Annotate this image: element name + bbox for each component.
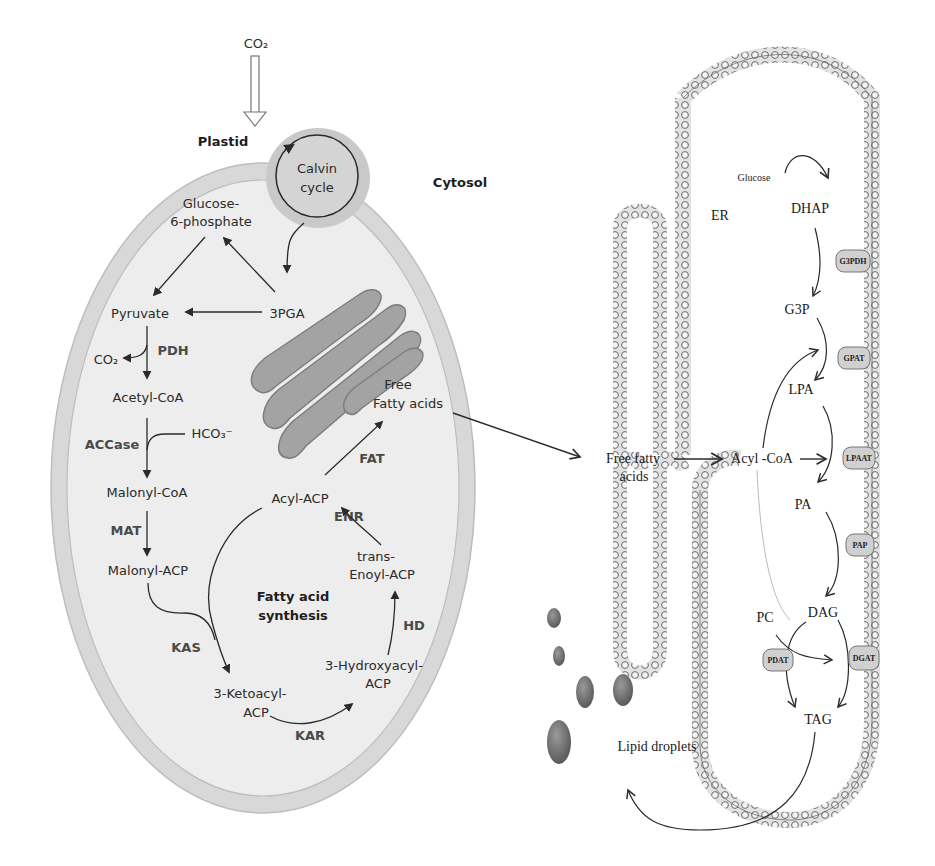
acyl-acp-label: Acyl-ACP [271,491,328,506]
lipid-biosynthesis-diagram: CO₂ Plastid Cytosol Calvin cycle Glucose… [0,0,935,866]
svg-text:LPAAT: LPAAT [846,454,873,463]
pdh-enzyme: PDH [157,343,188,358]
co2-output-label: CO₂ [94,352,119,367]
enzyme-pap: PAP [846,534,874,556]
g3p-label: G3P [785,302,810,317]
enoyl-acp-label-1: trans- [357,549,395,564]
fatty-acid-synthesis-label-1: Fatty acid [257,589,330,604]
plastid-free-fatty-acids-label-1: Free [384,377,412,392]
ketoacyl-acp-label-1: 3-Ketoacyl- [214,686,287,701]
3pga-label: 3PGA [269,306,304,321]
hydroxyacyl-acp-label-2: ACP [365,676,391,691]
svg-text:DGAT: DGAT [853,654,876,663]
glucose-arrow [785,156,828,178]
svg-text:G3PDH: G3PDH [839,257,867,266]
calvin-cycle-label-1: Calvin [297,161,337,176]
plastid-free-fatty-acids-label-2: Fatty acids [373,396,443,411]
bicarbonate-label: HCO₃⁻ [191,426,232,441]
plastid-label: Plastid [198,134,248,149]
fatty-acid-synthesis-label-2: synthesis [258,608,328,623]
mat-enzyme: MAT [111,523,142,538]
enzyme-pdat: PDAT [763,649,793,671]
calvin-cycle [266,128,370,228]
enr-enzyme: ENR [334,509,364,524]
malonyl-coa-label: Malonyl-CoA [107,485,188,500]
cytosol-free-fatty-acids-label-2: acids [620,469,649,484]
acylcoa-to-dag-faint-arrow [757,470,790,620]
acetyl-coa-label: Acetyl-CoA [113,390,184,405]
enoyl-acp-label-2: Enoyl-ACP [349,567,415,582]
co2-input-label: CO₂ [244,36,269,51]
svg-text:PAP: PAP [853,541,868,550]
lipid-droplets-label: Lipid droplets [618,739,697,754]
enzyme-lpaat: LPAAT [843,447,875,469]
pc-label: PC [756,610,773,625]
svg-text:PDAT: PDAT [767,656,789,665]
kar-enzyme: KAR [295,728,325,743]
acyl-coa-label: Acyl -CoA [731,451,794,466]
hydroxyacyl-acp-label-1: 3-Hydroxyacyl- [325,658,423,673]
dag-label: DAG [808,605,838,620]
accase-enzyme: ACCase [85,437,140,452]
pyruvate-label: Pyruvate [111,306,169,321]
glucose-label: Glucose [738,172,771,183]
hd-enzyme: HD [403,618,425,633]
enzyme-dgat: DGAT [849,646,879,670]
cytosol-free-fatty-acids-label-1: Free fatty [606,451,660,466]
pa-label: PA [795,497,813,512]
calvin-cycle-label-2: cycle [300,180,334,195]
dhap-label: DHAP [791,201,829,216]
kas-enzyme: KAS [171,640,201,655]
ketoacyl-acp-label-2: ACP [243,705,269,720]
malonyl-acp-label: Malonyl-ACP [108,563,188,578]
svg-text:GPAT: GPAT [843,354,865,363]
glucose-6-phosphate-label-2: 6-phosphate [170,214,252,229]
enzyme-g3pdh: G3PDH [836,250,870,272]
lpa-label: LPA [788,382,814,397]
er-label: ER [711,208,730,223]
er-membrane [620,55,872,821]
co2-input-arrow [244,56,266,126]
fat-enzyme: FAT [359,451,384,466]
cytosol-label: Cytosol [433,175,487,190]
tag-label: TAG [804,712,832,727]
enzyme-gpat: GPAT [838,347,870,369]
glucose-6-phosphate-label-1: Glucose- [183,196,240,211]
